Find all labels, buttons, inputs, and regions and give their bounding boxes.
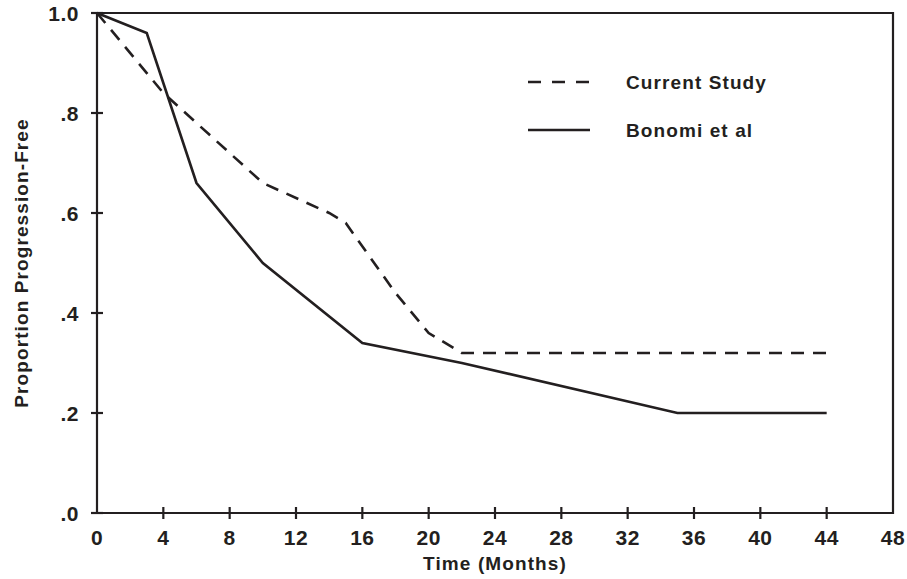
x-axis-tick-labels: 04812162024283236404448: [91, 526, 905, 549]
y-tick-label: 1.0: [48, 2, 79, 25]
y-tick-label: .8: [60, 102, 79, 125]
x-tick-label: 48: [881, 526, 905, 549]
plot-frame: [97, 13, 893, 513]
chart-legend: Current StudyBonomi et al: [528, 72, 767, 141]
y-tick-label: .4: [60, 302, 79, 325]
x-tick-label: 4: [157, 526, 169, 549]
progression-free-survival-chart: .0.2.4.6.81.0 04812162024283236404448 Ti…: [0, 0, 907, 579]
x-tick-label: 8: [224, 526, 236, 549]
x-tick-label: 12: [284, 526, 308, 549]
x-tick-label: 44: [814, 526, 838, 549]
legend-label-bonomi-et-al: Bonomi et al: [626, 120, 753, 141]
legend-label-current-study: Current Study: [626, 72, 767, 93]
chart-container: .0.2.4.6.81.0 04812162024283236404448 Ti…: [0, 0, 907, 579]
x-tick-label: 16: [350, 526, 374, 549]
x-tick-label: 28: [549, 526, 573, 549]
series-line-current-study: [97, 13, 827, 353]
y-tick-label: .2: [60, 402, 79, 425]
x-tick-label: 36: [682, 526, 706, 549]
x-tick-label: 40: [748, 526, 772, 549]
x-axis-title: Time (Months): [423, 553, 567, 574]
y-tick-label: .0: [60, 502, 79, 525]
y-axis-tick-labels: .0.2.4.6.81.0: [48, 2, 79, 525]
x-tick-label: 24: [483, 526, 507, 549]
x-tick-label: 0: [91, 526, 103, 549]
x-tick-label: 20: [416, 526, 440, 549]
x-tick-label: 32: [615, 526, 639, 549]
y-tick-label: .6: [60, 202, 79, 225]
y-axis-title: Proportion Progression-Free: [11, 118, 32, 407]
